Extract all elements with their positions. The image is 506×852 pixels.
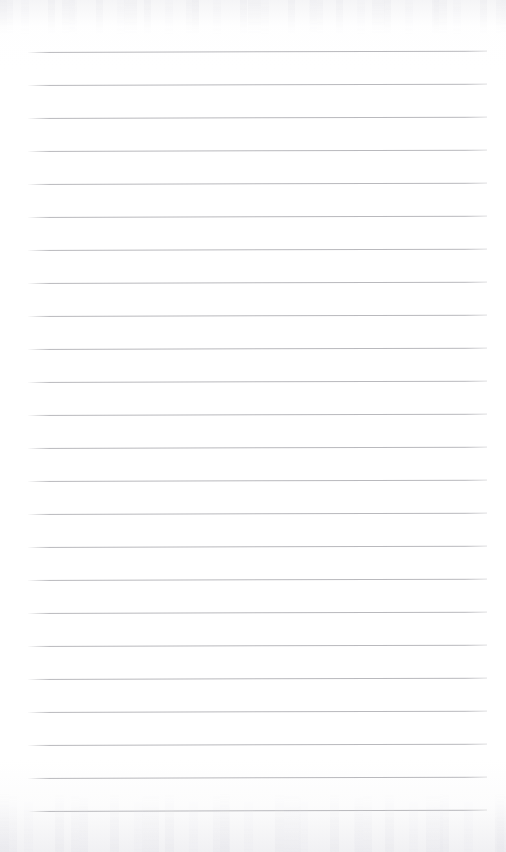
- writing-area[interactable]: [28, 20, 487, 820]
- lined-paper-page: [0, 0, 506, 852]
